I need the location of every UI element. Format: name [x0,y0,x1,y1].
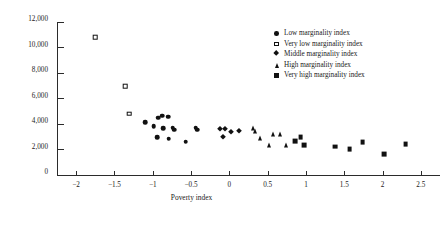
x-tick-line [76,171,77,176]
y-tick-line [57,124,64,125]
data-point [167,136,172,141]
data-point [161,126,166,131]
x-tick-line [191,171,192,176]
x-tick-line [344,171,345,176]
data-point [160,113,165,118]
legend-item: Very high marginality index [272,70,365,81]
scatter-chart-figure: 02,0004,0006,0008,00010,00012,000 −2−1.5… [0,0,444,226]
data-point [229,130,233,134]
data-point [143,120,148,125]
x-tick-line [421,171,422,176]
data-point [298,135,303,140]
x-tick-label: −2 [72,181,80,189]
data-point [183,139,188,144]
x-tick-label: 2.5 [416,181,425,189]
legend-item: Middle marginality index [272,49,365,60]
data-point [258,136,262,141]
x-tick-line [383,171,384,176]
x-tick-line [268,171,269,176]
x-tick-label: 1.5 [340,181,349,189]
data-point [221,135,225,139]
y-tick-line [57,149,64,150]
data-point [236,129,240,133]
plot-area: 02,0004,0006,0008,00010,00012,000 −2−1.5… [57,22,440,175]
legend-item-label: Very high marginality index [284,70,365,81]
legend-marker-icon [272,50,281,59]
data-point [166,115,171,120]
data-point [360,139,365,144]
data-point [403,142,408,147]
x-tick-label: −1.5 [108,181,121,189]
y-tick-label: 0 [44,168,48,176]
y-tick-label: 12,000 [28,15,48,23]
data-point [284,142,288,147]
y-tick-label: 10,000 [28,41,48,49]
marker-diamond-icon [235,128,241,134]
chart-legend: Low marginality indexVery low marginalit… [272,28,365,81]
data-point [155,135,160,140]
data-point [123,84,128,89]
x-tick-label: 1 [304,181,308,189]
data-point [151,124,156,129]
data-point [223,127,227,131]
data-point [253,128,257,133]
y-tick-line [57,47,64,48]
y-tick-line [57,73,64,74]
legend-item: Very low marginality index [272,39,365,50]
legend-item-label: Very low marginality index [284,39,363,50]
x-tick-line [153,171,154,176]
legend-marker-icon [272,39,281,48]
x-tick-line [229,171,230,176]
legend-item: Low marginality index [272,28,365,39]
x-tick-label: −0.5 [185,181,198,189]
x-tick-label: 0.5 [263,181,272,189]
x-tick-line [114,171,115,176]
data-point [195,128,200,133]
data-point [267,142,271,147]
x-tick-label: 0 [228,181,232,189]
y-tick-label: 8,000 [32,66,48,74]
legend-item-label: High marginality index [284,60,351,71]
y-tick-label: 4,000 [32,117,48,125]
data-point [271,132,275,137]
data-point [172,127,177,132]
y-tick-line [57,175,64,176]
x-tick-label: 2 [381,181,385,189]
y-tick-label: 6,000 [32,92,48,100]
data-point [382,152,387,157]
y-tick-label: 2,000 [32,143,48,151]
x-axis-title: Poverty index [0,193,383,202]
legend-item: High marginality index [272,60,365,71]
data-point [278,132,282,137]
marker-diamond-icon [228,129,234,135]
marker-diamond-icon [220,134,226,140]
data-point [302,143,307,148]
data-point [333,144,338,149]
x-tick-label: −1 [149,181,157,189]
data-point [347,147,352,152]
marker-diamond-icon [273,51,279,57]
y-tick-line [57,98,64,99]
x-tick-line [306,171,307,176]
y-tick-line [57,22,64,23]
data-point [127,112,132,117]
data-point [93,35,98,40]
legend-marker-icon [272,29,281,38]
data-point [293,139,298,144]
legend-marker-icon [272,61,281,70]
legend-marker-icon [272,71,281,80]
legend-item-label: Low marginality index [284,28,350,39]
legend-item-label: Middle marginality index [284,49,357,60]
